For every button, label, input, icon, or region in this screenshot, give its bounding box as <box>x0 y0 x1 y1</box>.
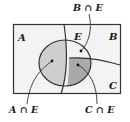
venn-diagram: A B C E B ∩ E A ∩ E C ∩ E <box>0 0 130 122</box>
label-a-and-e: A ∩ E <box>8 104 39 115</box>
label-b-and-e: B ∩ E <box>72 2 104 13</box>
label-set-c: C <box>109 80 117 91</box>
label-set-b: B <box>108 31 117 42</box>
label-set-e: E <box>73 31 82 42</box>
label-c-and-e: C ∩ E <box>85 104 115 115</box>
label-set-a: A <box>17 32 26 43</box>
